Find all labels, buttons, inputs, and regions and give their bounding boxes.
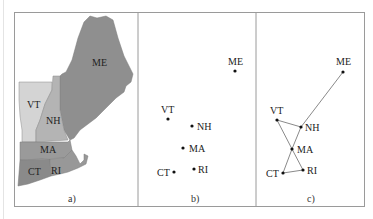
- label-nh: NH: [46, 115, 60, 126]
- caption-b: b): [191, 193, 199, 204]
- point-label-vt: VT: [161, 104, 174, 115]
- point-label-nh: NH: [197, 121, 211, 132]
- node-label-me: ME: [336, 56, 351, 67]
- node-label-vt: VT: [270, 105, 283, 116]
- edge-vt-ma: [277, 120, 292, 149]
- edge-nh-me: [301, 72, 343, 127]
- node-ri: [301, 168, 304, 171]
- caption-c: c): [307, 193, 315, 204]
- node-nh: [299, 125, 302, 128]
- panel-a-map: ME VT NH MA CT RI: [18, 16, 133, 186]
- node-vt: [275, 118, 278, 121]
- node-label-ct: CT: [266, 168, 279, 179]
- point-ct: [172, 170, 175, 173]
- point-label-ct: CT: [157, 167, 170, 178]
- node-me: [341, 70, 344, 73]
- point-ma: [181, 146, 184, 149]
- point-label-ri: RI: [198, 164, 208, 175]
- point-vt: [166, 117, 169, 120]
- label-ct: CT: [28, 166, 41, 177]
- point-ri: [192, 167, 195, 170]
- node-ct: [281, 171, 284, 174]
- node-label-nh: NH: [305, 122, 319, 133]
- node-ma: [290, 147, 293, 150]
- panel-c-graph: ME VT NH MA CT RI: [266, 56, 351, 179]
- point-nh: [190, 124, 193, 127]
- label-vt: VT: [27, 99, 40, 110]
- panel-b-points: ME VT NH MA CT RI: [157, 56, 243, 178]
- label-ri: RI: [51, 165, 61, 176]
- node-label-ma: MA: [297, 144, 314, 155]
- state-me: [60, 16, 133, 140]
- caption-a: a): [68, 193, 76, 204]
- point-label-me: ME: [228, 56, 243, 67]
- point-label-ma: MA: [189, 143, 206, 154]
- edge-ct-ri: [283, 170, 303, 173]
- figure-canvas: ME VT NH MA CT RI ME VT NH MA CT RI ME: [0, 0, 373, 219]
- edge-ma-ct: [283, 149, 292, 173]
- point-me: [233, 69, 236, 72]
- node-label-ri: RI: [307, 165, 317, 176]
- label-ma: MA: [40, 144, 57, 155]
- label-me: ME: [92, 57, 107, 68]
